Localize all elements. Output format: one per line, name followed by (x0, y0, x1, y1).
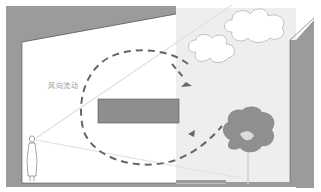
airflow-label: 风向流动 (48, 80, 78, 90)
building-wall-right (296, 20, 314, 188)
ceiling-block (98, 99, 179, 123)
section-diagram (0, 0, 321, 192)
floor-right (176, 180, 226, 183)
